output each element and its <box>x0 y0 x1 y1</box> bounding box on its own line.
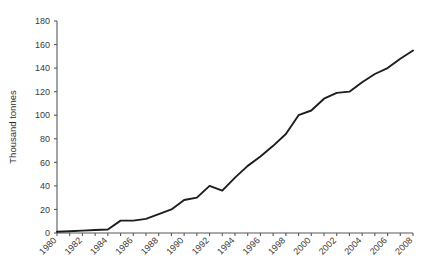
line-chart: 020406080100120140160180 198019821984198… <box>0 0 428 273</box>
y-axis-tick-label: 20 <box>40 205 50 215</box>
y-axis-tick-label: 120 <box>35 87 50 97</box>
y-axis-tick-label: 160 <box>35 40 50 50</box>
y-axis-tick-label: 100 <box>35 110 50 120</box>
y-axis-tick-label: 140 <box>35 63 50 73</box>
y-axis-tick-label: 80 <box>40 134 50 144</box>
y-axis-tick-label: 40 <box>40 181 50 191</box>
y-axis-title: Thousand tonnes <box>7 90 18 164</box>
y-axis-tick-label: 60 <box>40 158 50 168</box>
y-axis-tick-label: 180 <box>35 16 50 26</box>
